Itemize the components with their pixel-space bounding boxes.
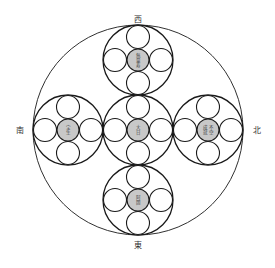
direction-label-west: 西: [134, 15, 142, 24]
attendant-circle: [57, 142, 80, 165]
attendant-circle: [150, 49, 173, 72]
attendant-circle: [127, 166, 150, 189]
direction-label-north: 北: [253, 126, 261, 135]
five-buddha-mandala-diagram: 無量寿宝生大日不空成就阿閦 西 南 北 東: [0, 0, 275, 268]
direction-label-east: 東: [134, 240, 142, 250]
attendant-circle: [104, 119, 127, 142]
wheel-unit-left: 宝生: [33, 95, 103, 165]
attendant-circle: [127, 72, 150, 95]
buddha-name-right: 不空成就: [203, 124, 214, 136]
wheel-unit-bottom: 阿閦: [103, 165, 173, 235]
wheel-unit-right: 不空成就: [173, 95, 243, 165]
core-circle-right: [197, 119, 219, 141]
attendant-circle: [197, 142, 220, 165]
attendant-circle: [174, 119, 197, 142]
attendant-circle: [34, 119, 57, 142]
wheel-unit-top: 無量寿: [103, 25, 173, 95]
attendant-circle: [57, 96, 80, 119]
attendant-circle: [127, 96, 150, 119]
attendant-circle: [104, 49, 127, 72]
attendant-circle: [127, 142, 150, 165]
direction-label-south: 南: [16, 125, 24, 135]
attendant-circle: [127, 212, 150, 235]
attendant-circle: [220, 119, 243, 142]
wheel-unit-center: 大日: [103, 95, 173, 165]
attendant-circle: [197, 96, 220, 119]
attendant-circle: [80, 119, 103, 142]
attendant-circle: [150, 189, 173, 212]
attendant-circle: [127, 26, 150, 49]
attendant-circle: [104, 189, 127, 212]
attendant-circle: [150, 119, 173, 142]
